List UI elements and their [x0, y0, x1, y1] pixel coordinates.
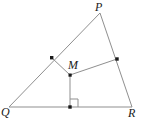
geometry-figure: P Q R M: [0, 0, 145, 124]
midpoint-qp-dot: [50, 56, 53, 59]
point-m-dot: [69, 74, 72, 77]
vertex-label-r: R: [128, 107, 135, 119]
vertex-label-p: P: [95, 1, 102, 13]
foot-of-perpendicular-dot: [68, 105, 71, 108]
midpoint-pr-dot: [115, 57, 118, 60]
point-markers: [50, 56, 119, 109]
cevian-segments: [52, 58, 117, 107]
vertex-label-q: Q: [1, 106, 10, 118]
point-label-m: M: [68, 59, 78, 71]
